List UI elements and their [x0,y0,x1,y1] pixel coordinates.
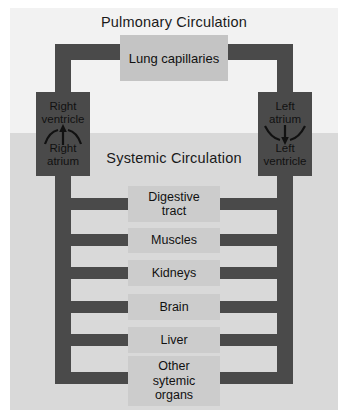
organ-label-other-organs-line3: organs [128,388,220,403]
left-ventricle-label-line1: Left [258,142,312,155]
vessel-branch-right-other-organs [215,372,293,384]
organ-box-liver: Liver [128,327,220,353]
right-ventricle-label-line2: ventricle [36,113,90,126]
vessel-right-rail [277,190,293,384]
organ-label-digestive-tract-line1: Digestive [128,190,220,205]
circulation-diagram: Pulmonary Circulation Systemic Circulati… [10,8,338,410]
left-heart-chamber: Left atrium Left ventricle [258,92,312,176]
organ-label-other-organs-line1: Other [128,359,220,374]
organ-label-digestive-tract-line2: tract [128,204,220,219]
organ-box-muscles: Muscles [128,228,220,253]
left-atrium-label-line1: Left [258,100,312,113]
vessel-branch-left-other-organs [55,372,133,384]
vessel-left-rail [55,190,71,384]
vessel-branch-left-muscles [55,234,133,246]
organ-box-kidneys: Kidneys [128,260,220,286]
pulmonary-circulation-title: Pulmonary Circulation [10,14,338,30]
right-ventricle-label-line1: Right [36,100,90,113]
vessel-branch-left-liver [55,334,133,346]
right-atrium-label-line1: Right [36,142,90,155]
organ-label-muscles-line1: Muscles [128,233,220,248]
organ-label-other-organs-line2: sytemic [128,374,220,389]
vessel-branch-right-kidneys [215,267,293,279]
lung-label-line2: capillaries [161,51,219,66]
vessel-branch-right-brain [215,301,293,313]
organ-label-liver-line1: Liver [128,333,220,348]
organ-box-digestive-tract: Digestive tract [128,186,220,222]
left-atrium-label-line2: atrium [258,113,312,126]
vessel-branch-left-digestive-tract [55,198,133,210]
organ-label-brain-line1: Brain [128,300,220,315]
vessel-branch-right-liver [215,334,293,346]
lung-capillaries-box: Lung capillaries [120,35,228,81]
right-atrium-label-line2: atrium [36,155,90,168]
lung-label-line1: Lung [129,51,158,66]
vessel-branch-left-kidneys [55,267,133,279]
vessel-branch-right-digestive-tract [215,198,293,210]
organ-label-kidneys-line1: Kidneys [128,266,220,281]
vessel-right-ventricle-to-lung-horizontal [55,44,123,60]
organ-box-brain: Brain [128,294,220,320]
left-ventricle-label-line2: ventricle [258,155,312,168]
organ-box-other-systemic-organs: Other sytemic organs [128,356,220,406]
vessel-branch-right-muscles [215,234,293,246]
right-heart-chamber: Right ventricle Right atrium [36,92,90,176]
vessel-branch-left-brain [55,301,133,313]
